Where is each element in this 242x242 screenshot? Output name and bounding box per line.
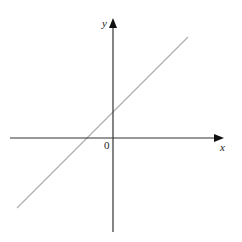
coordinate-plane: x y 0 — [0, 0, 242, 242]
origin-label: 0 — [104, 139, 110, 151]
y-axis-label: y — [101, 17, 107, 29]
graph-line — [17, 37, 188, 208]
y-axis-arrow-icon — [109, 18, 117, 28]
x-axis-label: x — [219, 141, 225, 153]
